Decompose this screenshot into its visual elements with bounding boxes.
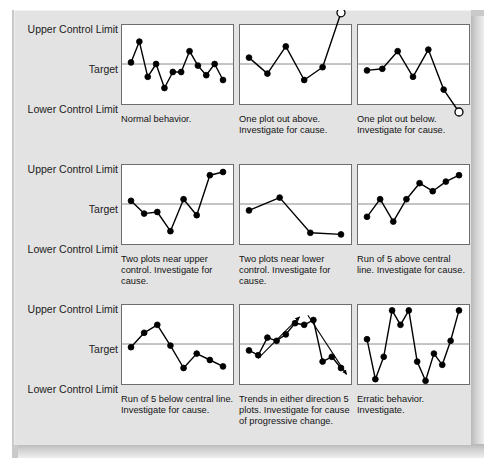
slab-edge-bottom — [18, 444, 484, 458]
data-point — [207, 357, 213, 363]
chart-caption-erratic-behavior: Erratic behavior.Investigate. — [357, 394, 473, 416]
chart-caption-normal-behavior: Normal behavior. — [121, 114, 237, 125]
data-point — [141, 211, 147, 217]
caption-line: Erratic behavior. — [357, 394, 473, 405]
caption-line: Two plots near lower — [239, 254, 355, 265]
data-point — [212, 61, 218, 67]
data-point — [414, 359, 420, 365]
data-point — [448, 338, 454, 344]
data-point — [220, 364, 226, 370]
data-point — [181, 196, 187, 202]
chart-plot-run-of-5-below — [121, 290, 235, 398]
caption-line: Two plots near upper — [121, 254, 237, 265]
data-point-outlier — [337, 10, 345, 17]
data-point — [154, 209, 160, 215]
axis-label-column: Upper Control Limit Target Lower Control… — [14, 150, 118, 290]
caption-line: control. Investigate for — [239, 265, 355, 276]
chart-panel-run-of-5-above: Run of 5 above centralline. Investigate … — [357, 150, 469, 290]
data-point — [338, 365, 344, 371]
slab-edge-right — [470, 16, 484, 458]
data-point — [283, 332, 289, 338]
data-point — [404, 196, 410, 202]
data-point — [255, 352, 261, 358]
data-point — [136, 39, 142, 45]
data-point — [381, 354, 387, 360]
axis-label-upper-control-limit: Upper Control Limit — [28, 304, 118, 315]
axis-label-target: Target — [89, 64, 118, 75]
chart-plot-erratic-behavior — [357, 290, 471, 398]
chart-caption-run-of-5-below: Run of 5 below central line.Investigate … — [121, 394, 237, 416]
caption-line: Investigate for cause. — [121, 405, 237, 416]
data-point — [364, 214, 370, 220]
data-point — [128, 198, 134, 204]
data-point — [162, 85, 168, 91]
data-point — [301, 77, 307, 83]
data-point — [246, 348, 252, 354]
axis-label-target: Target — [89, 204, 118, 215]
data-point — [194, 212, 200, 218]
caption-line: of progressive change. — [239, 416, 355, 427]
caption-line: Run of 5 above central — [357, 254, 473, 265]
chart-plot-trends-either-direction — [239, 290, 353, 398]
data-point — [265, 335, 271, 341]
axis-label-lower-control-limit: Lower Control Limit — [28, 384, 118, 395]
data-point — [153, 61, 159, 67]
data-point — [398, 322, 404, 328]
data-point — [195, 63, 201, 69]
data-point — [168, 343, 174, 349]
caption-line: line. Investigate for cause. — [357, 265, 473, 276]
data-point — [220, 169, 226, 175]
data-point — [443, 179, 449, 185]
caption-line: Investigate for cause. — [239, 125, 355, 136]
data-point — [389, 308, 395, 314]
chart-caption-run-of-5-above: Run of 5 above centralline. Investigate … — [357, 254, 473, 276]
axis-label-upper-control-limit: Upper Control Limit — [28, 24, 118, 35]
chart-row: Upper Control Limit Target Lower Control… — [14, 10, 470, 150]
data-point — [425, 47, 431, 53]
chart-panel-two-plots-near-upper: Two plots near uppercontrol. Investigate… — [121, 150, 233, 290]
data-point — [128, 344, 134, 350]
data-point — [406, 308, 412, 314]
data-point — [246, 208, 252, 214]
data-point — [154, 322, 160, 328]
data-point — [439, 362, 445, 368]
data-point — [311, 317, 317, 323]
data-point — [417, 180, 423, 186]
data-point — [377, 196, 383, 202]
axis-label-column: Upper Control Limit Target Lower Control… — [14, 10, 118, 150]
data-point — [395, 48, 401, 54]
data-point — [390, 219, 396, 225]
data-point — [141, 330, 147, 336]
chart-panel-one-plot-out-below: One plot out below.Investigate for cause… — [357, 10, 469, 150]
axis-label-column: Upper Control Limit Target Lower Control… — [14, 290, 118, 434]
chart-caption-two-plots-near-lower: Two plots near lowercontrol. Investigate… — [239, 254, 355, 288]
chart-panel-one-plot-out-above: One plot out above.Investigate for cause… — [239, 10, 351, 150]
chart-row: Upper Control Limit Target Lower Control… — [14, 290, 470, 434]
axis-label-lower-control-limit: Lower Control Limit — [28, 244, 118, 255]
data-point — [320, 64, 326, 70]
caption-line: Run of 5 below central line. — [121, 394, 237, 405]
chart-plot-normal-behavior — [121, 10, 235, 118]
data-point — [329, 354, 335, 360]
data-point — [274, 338, 280, 344]
caption-line: Investigate. — [357, 405, 473, 416]
data-point — [246, 55, 252, 61]
data-point — [194, 351, 200, 357]
data-point — [379, 66, 385, 72]
data-point — [170, 69, 176, 75]
data-point — [410, 74, 416, 80]
axis-label-target: Target — [89, 344, 118, 355]
data-point — [207, 172, 213, 178]
data-point — [456, 172, 462, 178]
chart-panel-run-of-5-below: Run of 5 below central line.Investigate … — [121, 290, 233, 434]
caption-line: Trends in either direction 5 — [239, 394, 355, 405]
data-point — [307, 230, 313, 236]
axis-label-lower-control-limit: Lower Control Limit — [28, 104, 118, 115]
chart-row: Upper Control Limit Target Lower Control… — [14, 150, 470, 290]
chart-plot-one-plot-out-above — [239, 10, 353, 118]
data-point — [301, 322, 307, 328]
chart-plot-run-of-5-above — [357, 150, 471, 258]
caption-line: One plot out below. — [357, 114, 473, 125]
data-point — [178, 69, 184, 75]
caption-line: plots. Investigate for cause — [239, 405, 355, 416]
